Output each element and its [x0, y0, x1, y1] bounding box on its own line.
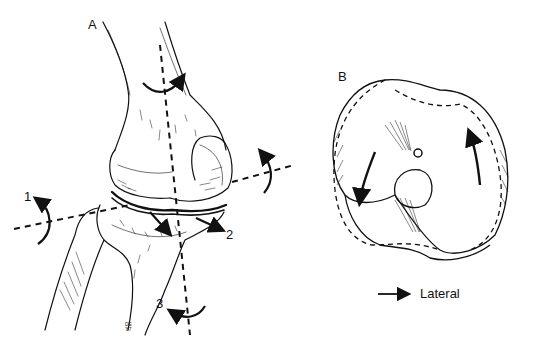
artist-signature: DE '87 [125, 322, 132, 332]
medial-rotation-arrow [360, 152, 375, 200]
medial-condyle [110, 150, 170, 198]
tibia [97, 205, 133, 330]
medial-meniscus [395, 170, 432, 208]
axis-right-line [232, 165, 294, 182]
fibula [45, 208, 98, 330]
femur-shaft [103, 22, 129, 150]
panel-b-arrows [360, 134, 480, 200]
femur-rotation-arrow [143, 78, 182, 92]
rotation-arrows [38, 78, 271, 317]
panel-b-drawing [333, 80, 508, 260]
lateral-rotation-arrow [470, 134, 480, 185]
panel-a-drawing [45, 22, 232, 335]
axis-label-2: 2 [226, 228, 233, 241]
lateral-condyle [170, 136, 232, 201]
axis-label-3: 3 [156, 297, 163, 310]
panel-label-a: A [88, 18, 97, 31]
center-point [414, 149, 422, 157]
tibial-plateau-outline [333, 80, 508, 254]
legend-label: Lateral [420, 286, 460, 301]
axis-label-1: 1 [24, 190, 31, 203]
signature-year: '87 [125, 327, 132, 332]
legend: Lateral [378, 286, 460, 301]
panel-label-b: B [338, 70, 347, 83]
